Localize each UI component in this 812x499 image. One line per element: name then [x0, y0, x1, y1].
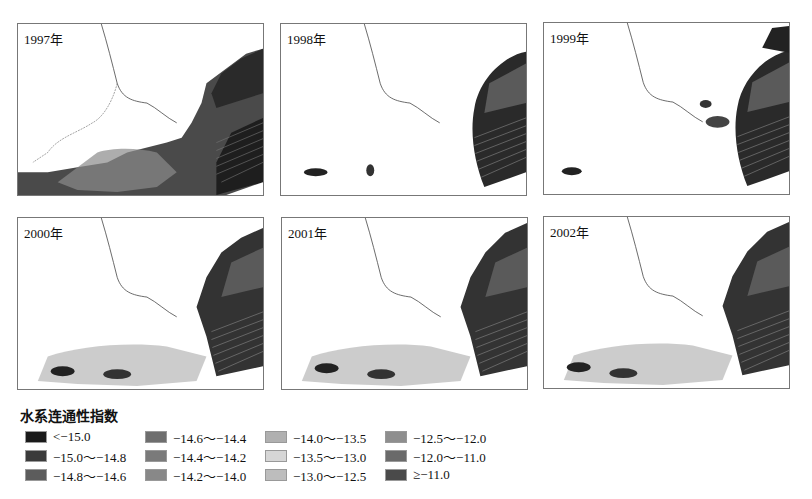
- legend-label: −15.0～−14.8: [53, 447, 126, 466]
- legend-item: −15.0～−14.8: [25, 449, 126, 463]
- legend-swatch: [385, 469, 407, 481]
- map-panel-1997: 1997年: [17, 23, 264, 196]
- legend-label: ≥−11.0: [413, 467, 450, 483]
- legend-item: −14.8～−14.6: [25, 468, 126, 482]
- legend-item: −14.4～−14.2: [145, 449, 246, 463]
- map-panel-2002: 2002年: [543, 216, 790, 389]
- connectivity-map: [544, 217, 789, 388]
- connectivity-map: [282, 218, 527, 389]
- legend-item: −14.2～−14.0: [145, 468, 246, 482]
- legend-swatch: [265, 431, 287, 443]
- legend-swatch: [25, 469, 47, 481]
- legend-item: −12.5～−12.0: [385, 430, 486, 444]
- map-panel-1999: 1999年: [543, 22, 790, 195]
- legend-item: −14.6～−14.4: [145, 430, 246, 444]
- connectivity-map: [281, 24, 526, 195]
- legend-label: −14.2～−14.0: [173, 466, 246, 485]
- panel-year-label: 2001年: [288, 223, 327, 242]
- panel-year-label: 1998年: [287, 29, 326, 48]
- legend-label: −14.6～−14.4: [173, 428, 246, 447]
- legend-swatch: [145, 469, 167, 481]
- panel-year-label: 1997年: [24, 29, 63, 48]
- map-panel-1998: 1998年: [280, 23, 527, 196]
- legend-label: −14.4～−14.2: [173, 447, 246, 466]
- legend-swatch: [25, 431, 47, 443]
- legend-item: <−15.0: [25, 430, 90, 444]
- legend-swatch: [265, 469, 287, 481]
- connectivity-map: [544, 23, 789, 194]
- legend-item: −13.0～−12.5: [265, 468, 366, 482]
- legend-item: −14.0～−13.5: [265, 430, 366, 444]
- legend-item: ≥−11.0: [385, 468, 450, 482]
- legend-label: −14.0～−13.5: [293, 428, 366, 447]
- connectivity-map: [18, 24, 263, 195]
- legend-title: 水系连通性指数: [20, 405, 118, 425]
- panel-year-label: 1999年: [550, 28, 589, 47]
- legend-swatch: [385, 450, 407, 462]
- legend-swatch: [145, 450, 167, 462]
- connectivity-map: [18, 218, 263, 389]
- panel-year-label: 2000年: [24, 223, 63, 242]
- map-panel-2001: 2001年: [281, 217, 528, 390]
- legend-label: <−15.0: [53, 429, 90, 445]
- panel-year-label: 2002年: [550, 222, 589, 241]
- legend-label: −12.0～−11.0: [413, 447, 486, 466]
- legend-item: −12.0～−11.0: [385, 449, 486, 463]
- map-panel-2000: 2000年: [17, 217, 264, 390]
- legend-label: −13.5～−13.0: [293, 447, 366, 466]
- legend-swatch: [265, 450, 287, 462]
- legend-swatch: [25, 450, 47, 462]
- legend-label: −14.8～−14.6: [53, 466, 126, 485]
- legend-swatch: [385, 431, 407, 443]
- legend-label: −12.5～−12.0: [413, 428, 486, 447]
- legend-swatch: [145, 431, 167, 443]
- legend-label: −13.0～−12.5: [293, 466, 366, 485]
- legend-item: −13.5～−13.0: [265, 449, 366, 463]
